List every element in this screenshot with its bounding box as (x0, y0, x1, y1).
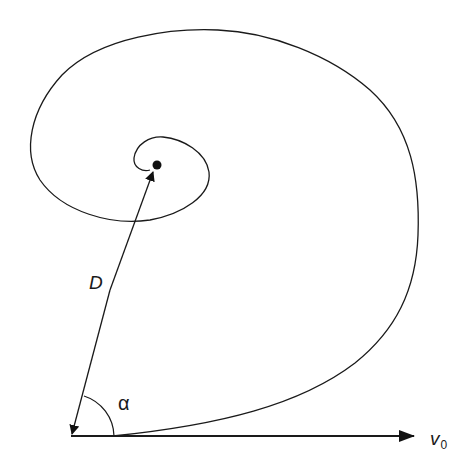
distance-label: D (89, 272, 103, 293)
velocity-label-v: v (430, 428, 441, 449)
velocity-label: v0 (430, 428, 448, 452)
distance-vector-d-lower (72, 290, 110, 434)
center-point (153, 161, 162, 170)
spiral-diagram: D α v0 (0, 0, 475, 464)
distance-vector-d (110, 172, 153, 290)
spiral-trajectory (31, 30, 419, 436)
velocity-label-subscript: 0 (441, 438, 448, 452)
angle-arc (84, 396, 114, 436)
angle-label: α (118, 392, 130, 414)
